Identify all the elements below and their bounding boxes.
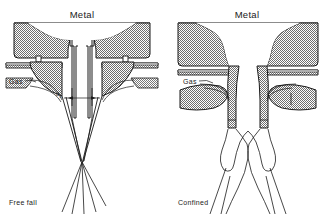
gas-port-right (123, 56, 128, 62)
caption-free-fall: Free fall (9, 199, 37, 206)
gas-manifold-channel-right-confined (265, 70, 318, 72)
gas-manifold-channel-left-confined (178, 70, 231, 72)
metal-label-left: Metal (70, 9, 95, 20)
metal-label-right: Metal (235, 9, 260, 20)
gas-port-left (36, 56, 41, 62)
atomizer-nozzle-figure: Metal (0, 0, 330, 218)
caption-confined: Confined (178, 199, 208, 206)
gas-label-left: Gas (9, 78, 23, 85)
gas-label-right: Gas (183, 78, 197, 85)
